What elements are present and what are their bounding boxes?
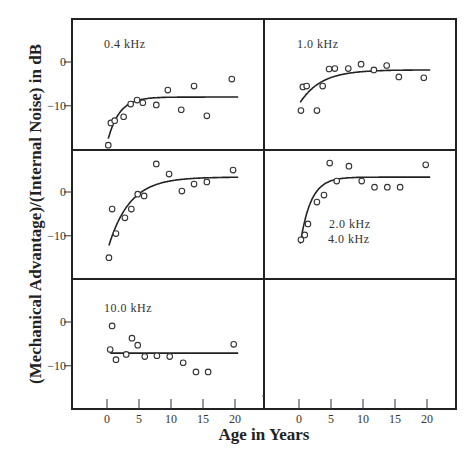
data-point: [334, 178, 340, 184]
data-point: [109, 206, 115, 212]
panel-label: 1.0 kHz: [297, 37, 339, 51]
data-point: [314, 199, 320, 205]
data-point: [153, 102, 159, 108]
data-point: [142, 354, 148, 360]
data-point: [153, 161, 159, 167]
data-point: [314, 108, 320, 114]
panel-10.0-khz: 10.0 kHz: [104, 301, 238, 375]
data-point: [135, 191, 141, 197]
data-point: [359, 178, 365, 184]
data-point: [129, 335, 135, 341]
data-point: [134, 97, 140, 103]
y-axis-title: (Mechanical Advantage)/(Internal Noise) …: [26, 44, 45, 384]
data-point: [191, 181, 197, 187]
data-point: [140, 100, 146, 106]
data-point: [123, 352, 129, 358]
data-point: [205, 369, 211, 375]
y-tick-label: 0: [60, 315, 66, 329]
data-point: [113, 231, 119, 237]
data-point: [105, 142, 111, 148]
x-axis-ticks: 0510152005101520: [104, 399, 433, 426]
x-tick-label: 5: [136, 412, 142, 426]
data-point: [128, 101, 134, 107]
data-point: [141, 193, 147, 199]
data-point: [122, 215, 128, 221]
y-tick-label: 0: [60, 185, 66, 199]
data-point: [121, 114, 127, 120]
x-tick-label: 15: [389, 412, 401, 426]
data-point: [109, 323, 115, 329]
data-point: [385, 184, 391, 190]
panel-1.0-khz: 1.0 kHz: [297, 37, 430, 113]
data-point: [154, 353, 160, 359]
data-point: [179, 188, 185, 194]
x-tick-label: 10: [357, 412, 369, 426]
x-tick-label: 0: [104, 412, 110, 426]
data-point: [423, 162, 429, 168]
age-vs-mechanical-advantage-chart: 0−100−100−10 0510152005101520 0.4 kHz1.0…: [0, 0, 471, 458]
data-point: [372, 184, 378, 190]
fit-curve: [109, 177, 238, 245]
data-point: [326, 66, 332, 72]
x-tick-label: 20: [421, 412, 433, 426]
data-point: [302, 232, 308, 238]
data-point: [178, 107, 184, 113]
data-point: [332, 66, 338, 72]
y-tick-label: −10: [47, 229, 66, 243]
data-point: [191, 83, 197, 89]
x-tick-label: 15: [197, 412, 209, 426]
y-tick-label: 0: [60, 55, 66, 69]
data-point: [112, 118, 118, 124]
data-point: [165, 87, 171, 93]
data-point: [231, 342, 237, 348]
data-point: [305, 221, 311, 227]
data-point: [397, 184, 403, 190]
data-point: [113, 357, 119, 363]
data-point: [346, 163, 352, 169]
data-point: [327, 160, 333, 166]
x-tick-label: 10: [165, 412, 177, 426]
data-point: [167, 354, 173, 360]
panel-label: 0.4 kHz: [104, 37, 146, 51]
y-tick-label: −10: [47, 359, 66, 373]
data-point: [421, 75, 427, 81]
data-point: [320, 83, 326, 89]
y-tick-label: −10: [47, 99, 66, 113]
data-point: [321, 192, 327, 198]
stray-dot: [262, 395, 264, 397]
panels: 0.4 kHz1.0 kHz2.0 kHz4.0 kHz10.0 kHz: [104, 37, 430, 397]
panel-0.4-khz: 0.4 kHz: [104, 37, 238, 148]
data-point: [106, 255, 112, 261]
data-point: [107, 347, 113, 353]
panel-label: 4.0 kHz: [328, 232, 370, 246]
data-point: [229, 76, 235, 82]
data-point: [230, 167, 236, 173]
data-point: [129, 206, 135, 212]
x-axis-title: Age in Years: [219, 425, 310, 444]
data-point: [298, 108, 304, 114]
data-point: [384, 63, 390, 69]
data-point: [298, 237, 304, 243]
panel-label: 10.0 kHz: [104, 301, 152, 315]
panel-4.0-khz: 4.0 kHz: [298, 160, 430, 246]
x-tick-label: 0: [296, 412, 302, 426]
data-point: [180, 360, 186, 366]
data-point: [358, 61, 364, 67]
data-point: [204, 113, 210, 119]
data-point: [193, 369, 199, 375]
data-point: [345, 66, 351, 72]
data-point: [135, 342, 141, 348]
data-point: [204, 179, 210, 185]
data-point: [396, 74, 402, 80]
data-point: [371, 67, 377, 73]
data-point: [166, 171, 172, 177]
panel-label: 2.0 kHz: [329, 217, 371, 231]
x-tick-label: 20: [229, 412, 241, 426]
x-tick-label: 5: [328, 412, 334, 426]
y-axis-ticks: 0−100−100−10: [47, 55, 72, 373]
data-point: [304, 83, 310, 89]
